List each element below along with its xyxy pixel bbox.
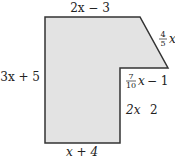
svg-text:− 1: − 1 [147, 74, 169, 88]
label-bottom: x + 4 [66, 145, 98, 159]
svg-text:x: x [138, 74, 145, 88]
svg-text:x: x [169, 32, 175, 46]
svg-text:5: 5 [160, 39, 165, 48]
svg-text:2: 2 [150, 103, 158, 117]
label-top: 2x − 3 [70, 1, 110, 15]
svg-text:4: 4 [160, 30, 165, 39]
svg-text:7: 7 [128, 72, 133, 81]
label-left: 3x + 5 [0, 70, 40, 84]
svg-text:2x: 2x [125, 103, 141, 117]
label-inner-top: 7 10 x − 1 [126, 72, 169, 90]
svg-text:10: 10 [126, 81, 136, 90]
label-inner-right: 2x 2 [125, 103, 158, 117]
label-slant: 4 5 x [159, 30, 175, 48]
composite-figure: 2x − 3 4 5 x 3x + 5 7 10 x − 1 2x 2 x + … [0, 0, 175, 160]
